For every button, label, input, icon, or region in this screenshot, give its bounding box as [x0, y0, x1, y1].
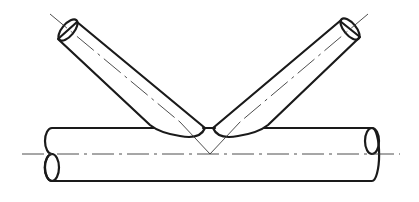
chord-pipe — [22, 128, 400, 181]
k-joint-drawing — [0, 0, 419, 202]
